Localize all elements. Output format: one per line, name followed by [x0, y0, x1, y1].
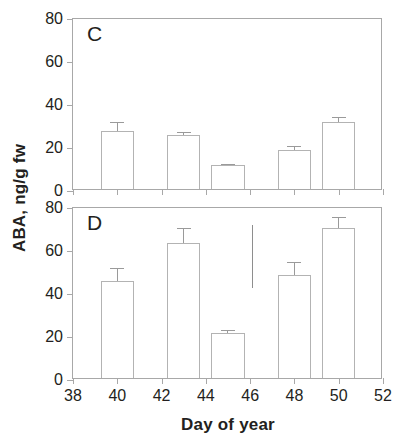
- error-bar: [101, 268, 134, 281]
- error-bar-stem: [183, 228, 184, 243]
- y-axis-tick: [67, 105, 73, 106]
- error-bar: [211, 164, 244, 166]
- plot-area-c: C 020406080: [73, 19, 381, 189]
- x-axis-tick: [339, 378, 340, 384]
- x-axis-title: Day of year: [60, 415, 396, 435]
- panel-c: C 020406080: [72, 18, 382, 190]
- x-axis-tick: [250, 378, 251, 384]
- y-axis-tick: [67, 208, 73, 209]
- x-axis-tick: [206, 189, 207, 195]
- y-axis-tick-label: 80: [45, 199, 63, 217]
- y-axis-tick-label: 20: [45, 328, 63, 346]
- panel-d: D 0204060803840424446485052: [72, 207, 382, 379]
- x-axis-tick: [117, 378, 118, 384]
- bar: [322, 228, 355, 379]
- y-axis-tick: [67, 337, 73, 338]
- y-axis-title: ABA, ng/g fw: [10, 108, 30, 288]
- x-axis-tick: [294, 378, 295, 384]
- error-bar-stem: [117, 268, 118, 281]
- figure-container: ABA, ng/g fw Day of year C 020406080 D 0…: [0, 0, 396, 446]
- y-axis-tick-label: 0: [54, 371, 63, 389]
- bar: [322, 122, 355, 189]
- error-bar: [167, 228, 200, 243]
- error-bar-cap: [177, 228, 191, 229]
- y-axis-tick-label: 60: [45, 53, 63, 71]
- x-axis-tick: [383, 189, 384, 195]
- plot-area-d: D 0204060803840424446485052: [73, 208, 381, 378]
- x-axis-tick-label: 52: [374, 387, 392, 405]
- error-bar-stem: [117, 122, 118, 131]
- y-axis-tick-label: 40: [45, 96, 63, 114]
- error-bar-stem: [338, 217, 339, 228]
- y-axis-tick: [67, 19, 73, 20]
- x-axis-tick: [250, 189, 251, 195]
- error-bar: [278, 146, 311, 150]
- bar: [211, 333, 244, 378]
- panel-letter-d: D: [87, 212, 102, 233]
- error-bar-cap: [177, 132, 191, 133]
- x-axis-tick-label: 50: [330, 387, 348, 405]
- error-bar: [322, 117, 355, 122]
- error-bar-cap: [332, 117, 346, 118]
- x-axis-tick-label: 40: [108, 387, 126, 405]
- x-axis-tick-label: 48: [286, 387, 304, 405]
- bar: [278, 150, 311, 189]
- error-bar: [101, 122, 134, 131]
- error-bar: [278, 262, 311, 275]
- x-axis-tick: [73, 189, 74, 195]
- bar: [167, 135, 200, 189]
- y-axis-tick: [67, 251, 73, 252]
- error-bar: [322, 217, 355, 228]
- y-axis-tick-label: 40: [45, 285, 63, 303]
- x-axis-tick: [383, 378, 384, 384]
- error-bar-cap: [110, 122, 124, 123]
- x-axis-tick: [206, 378, 207, 384]
- error-bar-cap: [332, 217, 346, 218]
- y-axis-tick-label: 0: [54, 182, 63, 200]
- x-axis-tick: [294, 189, 295, 195]
- vertical-marker-line: [252, 225, 253, 287]
- x-axis-tick-label: 44: [197, 387, 215, 405]
- x-axis-tick-label: 46: [241, 387, 259, 405]
- x-axis-tick: [117, 189, 118, 195]
- y-axis-tick: [67, 294, 73, 295]
- x-axis-tick: [73, 378, 74, 384]
- y-axis-tick-label: 80: [45, 10, 63, 28]
- x-axis-tick: [339, 189, 340, 195]
- x-axis-tick: [162, 189, 163, 195]
- y-axis-tick: [67, 62, 73, 63]
- y-axis-tick: [67, 148, 73, 149]
- bar: [167, 243, 200, 378]
- y-axis-tick-label: 60: [45, 242, 63, 260]
- bar: [101, 281, 134, 378]
- error-bar: [211, 330, 244, 333]
- error-bar-cap: [110, 268, 124, 269]
- x-axis-tick-label: 42: [153, 387, 171, 405]
- error-bar: [167, 132, 200, 135]
- error-bar-cap: [221, 164, 235, 165]
- x-axis-tick-label: 38: [64, 387, 82, 405]
- error-bar-cap: [287, 262, 301, 263]
- bar: [211, 165, 244, 189]
- x-axis-tick: [162, 378, 163, 384]
- error-bar-cap: [287, 146, 301, 147]
- bar: [101, 131, 134, 189]
- error-bar-cap: [221, 330, 235, 331]
- panel-letter-c: C: [87, 23, 102, 44]
- bar: [278, 275, 311, 378]
- error-bar-stem: [294, 262, 295, 275]
- y-axis-tick-label: 20: [45, 139, 63, 157]
